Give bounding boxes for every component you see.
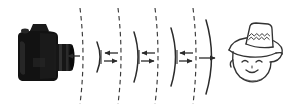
wavefront-diagram-svg — [0, 0, 290, 110]
solid-arc-1 — [97, 42, 100, 72]
solid-arc-group — [97, 20, 212, 94]
dashed-plane-1 — [80, 8, 83, 104]
dashed-plane-4 — [193, 8, 196, 104]
solid-arc-4 — [206, 20, 212, 94]
dslr-camera — [18, 24, 75, 81]
solid-arc-3 — [171, 28, 176, 86]
dashed-plane-2 — [118, 8, 121, 104]
smiling-face-with-hat — [229, 23, 282, 82]
solid-arc-2 — [134, 32, 138, 82]
dashed-plane-3 — [155, 8, 158, 104]
arrow-group — [68, 50, 215, 64]
diagram-canvas: Camera to subject wavefront propagation … — [0, 0, 290, 110]
